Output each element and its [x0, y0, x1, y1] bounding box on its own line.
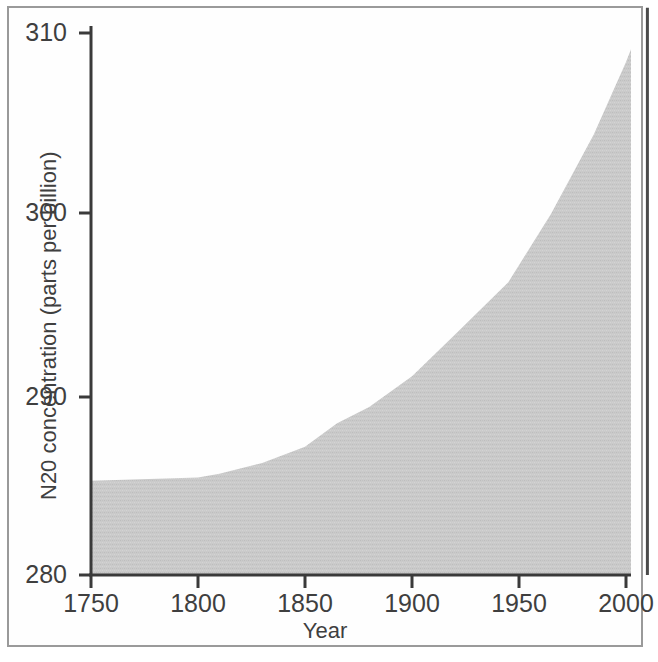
- x-tick-label-1750: 1750: [54, 589, 128, 618]
- area-fill: [80, 8, 647, 575]
- x-axis-title: Year: [0, 618, 650, 644]
- x-tick-label-1950: 1950: [482, 589, 556, 618]
- y-tick-label-310: 310: [12, 18, 67, 47]
- x-tick-label-1900: 1900: [375, 589, 449, 618]
- y-axis-ticks: [79, 33, 91, 575]
- x-tick-label-1800: 1800: [161, 589, 235, 618]
- x-tick-label-2000: 2000: [589, 589, 658, 618]
- area-series: [80, 8, 647, 575]
- x-axis-ticks: [91, 575, 626, 588]
- x-tick-label-1850: 1850: [268, 589, 342, 618]
- y-axis-title: N20 concentration (parts per billion): [36, 151, 62, 500]
- y-tick-label-280: 280: [12, 560, 67, 589]
